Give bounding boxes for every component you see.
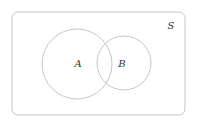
set-a-label: A: [73, 58, 81, 69]
venn-diagram: S A B: [0, 0, 200, 121]
universe-rect: [12, 12, 185, 115]
universe-label: S: [168, 20, 175, 31]
set-b-label: B: [117, 58, 125, 69]
